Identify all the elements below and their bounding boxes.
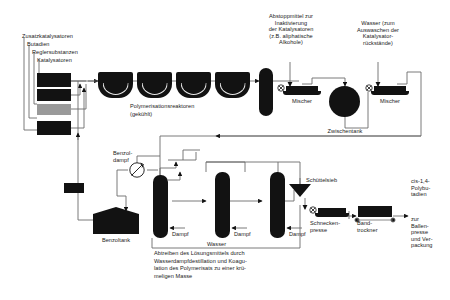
mixer-2-base xyxy=(371,91,409,95)
screw-press-label: Schnecken- presse xyxy=(310,220,340,233)
mixer-1-label: Mischer xyxy=(283,98,321,105)
reactor-bowl xyxy=(102,83,129,95)
benzene-vapour-label: Benzol- dampf xyxy=(113,150,132,163)
feed-label-butadien: Butadien xyxy=(27,41,49,48)
shaker-sieve[interactable] xyxy=(289,184,311,197)
auxiliary-unit-box[interactable] xyxy=(64,183,84,193)
reactor-bowl xyxy=(180,83,207,95)
process-flow-diagram: Zusatzkatalysatoren Butadien Reglersubst… xyxy=(0,0,450,300)
intermediate-tank[interactable] xyxy=(329,86,360,117)
polymerisation-reactor-4[interactable] xyxy=(215,72,250,98)
water-label: Wasser xyxy=(207,241,226,248)
water-wash-label: Wasser (zum Auswaschen der Katalysator- … xyxy=(340,20,416,46)
holding-column[interactable] xyxy=(259,68,273,116)
product-destination-label: zur Ballen- presse und Ver- packung xyxy=(411,216,433,249)
feed-box-1[interactable] xyxy=(37,73,71,87)
shaker-sieve-label: Schüttelsieb xyxy=(306,177,337,184)
feed-label-kat: Katalysatoren xyxy=(37,57,72,64)
stripping-column-1[interactable] xyxy=(153,175,168,238)
feed-label-regler: Reglersubstanzen xyxy=(32,49,78,56)
feed-header-label: Zusatzkatalysatoren xyxy=(22,33,73,40)
feed-box-2[interactable] xyxy=(37,89,71,101)
stripping-caption: Abtreiben des Lösungsmittels durch Wasse… xyxy=(154,250,247,280)
intermediate-tank-label: Zwischentank xyxy=(312,128,378,135)
stripping-column-2[interactable] xyxy=(215,172,230,238)
belt-dryer-label: Band- trockner xyxy=(357,220,378,233)
reactor-bowl xyxy=(219,83,246,95)
benzene-tank-label: Benzoltank xyxy=(90,237,142,244)
feed-box-3[interactable] xyxy=(37,104,71,115)
reactor-bowl xyxy=(141,83,168,95)
reactor-caption-line1: Polymerisationsreaktoren xyxy=(130,103,194,110)
feed-box-4[interactable] xyxy=(37,121,71,135)
benzene-tank-roof xyxy=(93,207,139,214)
screw-press-base xyxy=(315,213,349,217)
polymerisation-reactor-2[interactable] xyxy=(137,72,172,98)
steam-label-2: Dampf xyxy=(234,231,251,238)
steam-label-1: Dampf xyxy=(172,231,189,238)
polymerisation-reactor-3[interactable] xyxy=(176,72,211,98)
mixer-1-base xyxy=(283,91,321,95)
benzene-tank-body[interactable] xyxy=(93,214,139,234)
steam-label-3: Dampf xyxy=(289,231,306,238)
product-name-label: cis-1,4- Polybu- tadien xyxy=(411,178,430,198)
reactor-caption-line2: (gekühlt) xyxy=(130,111,152,118)
mixer-2-label: Mischer xyxy=(371,98,409,105)
stripping-column-3[interactable] xyxy=(270,172,285,238)
belt-dryer-body[interactable] xyxy=(358,206,392,217)
stopper-agent-label: Abstoppmittel zur Inaktivierung der Kata… xyxy=(250,13,332,46)
polymerisation-reactor-1[interactable] xyxy=(98,72,133,98)
